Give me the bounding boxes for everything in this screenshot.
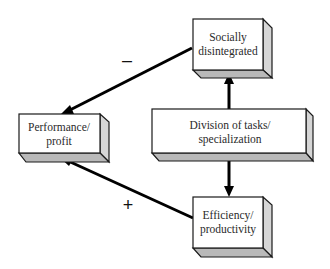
node-label-line2: specialization <box>198 133 261 146</box>
node-label-line1: Efficiency/ <box>203 209 255 222</box>
negative-sign: – <box>122 50 132 70</box>
node-label-line2: disintegrated <box>198 45 258 58</box>
node-socially-disintegrated: Socially disintegrated <box>193 19 272 78</box>
arrowhead-icon <box>224 186 234 197</box>
positive-sign: + <box>123 195 134 215</box>
node-label-line2: productivity <box>200 223 256 236</box>
node-label-line1: Socially <box>209 31 247 44</box>
edge-division-to-efficiency <box>224 161 234 197</box>
node-performance-profit: Performance/ profit <box>19 114 109 162</box>
node-label-line1: Division of tasks/ <box>189 119 271 131</box>
node-efficiency-productivity: Efficiency/ productivity <box>193 197 272 257</box>
node-label-line2: profit <box>46 135 72 148</box>
node-label-line1: Performance/ <box>28 121 91 133</box>
node-division-of-tasks: Division of tasks/ specialization <box>152 109 313 161</box>
causal-diagram: – + Socially disintegrated Performance/ … <box>0 0 330 269</box>
